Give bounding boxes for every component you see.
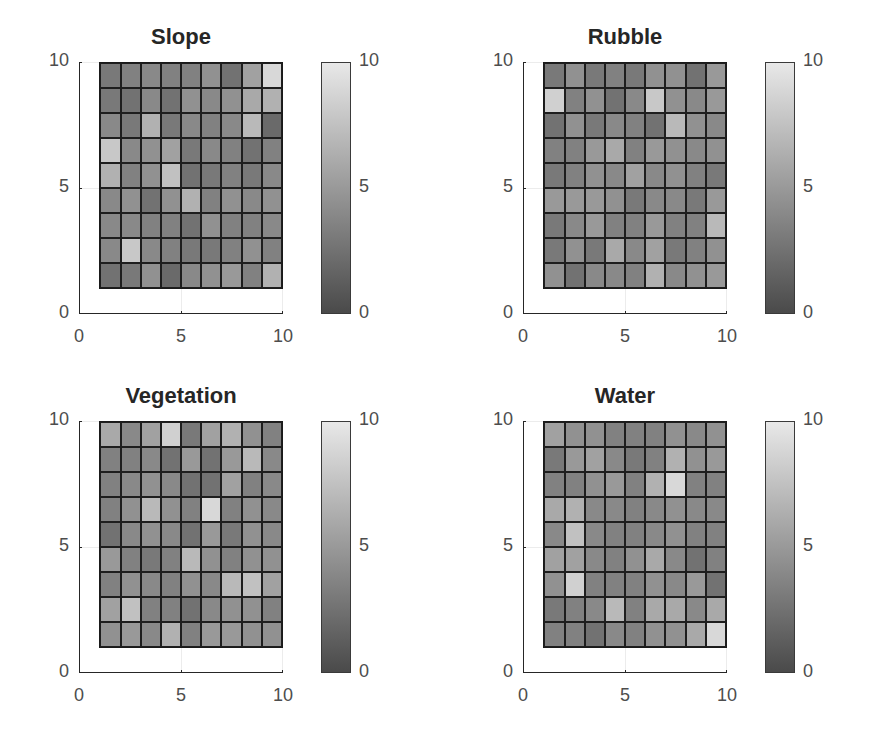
heatmap-cell [686,447,706,472]
heatmap-cell [605,213,625,238]
heatmap-cell [706,188,726,213]
chart-title: Vegetation [79,383,283,409]
heatmap-cell [625,88,645,113]
heatmap-cell [645,497,665,522]
heatmap-cell [565,63,585,88]
y-tick-label: 5 [483,535,513,556]
heatmap-cell [544,263,564,288]
heatmap-cell [706,597,726,622]
heatmap-cell [201,597,221,622]
heatmap-cell [242,188,262,213]
heatmap-cell [121,113,141,138]
heatmap-cell [645,113,665,138]
heatmap-cell [161,447,181,472]
x-tick-label: 10 [263,326,303,347]
heatmap-grid [543,421,727,648]
heatmap-cell [181,422,201,447]
y-tick-label: 10 [483,409,513,430]
heatmap-cell [585,522,605,547]
heatmap-cell [262,263,282,288]
heatmap-cell [121,238,141,263]
heatmap-cell [544,547,564,572]
heatmap-cell [645,422,665,447]
heatmap-cell [565,522,585,547]
heatmap-cell [665,113,685,138]
x-tick-label: 10 [707,326,747,347]
heatmap-cell [605,572,625,597]
heatmap-cell [706,572,726,597]
heatmap-cell [100,138,120,163]
heatmap-cell [625,263,645,288]
heatmap-cell [625,572,645,597]
heatmap-cell [181,188,201,213]
heatmap-cell [141,622,161,647]
heatmap-cell [201,547,221,572]
heatmap-cell [161,188,181,213]
heatmap-cell [565,113,585,138]
heatmap-cell [121,472,141,497]
heatmap-panel-water: Water051005100510 [444,359,873,719]
heatmap-cell [100,213,120,238]
heatmap-cell [161,522,181,547]
heatmap-cell [100,572,120,597]
y-tick-label: 0 [39,302,69,323]
heatmap-cell [201,622,221,647]
x-tick [282,670,283,673]
heatmap-cell [100,113,120,138]
heatmap-cell [544,238,564,263]
heatmap-cell [161,422,181,447]
heatmap-cell [706,213,726,238]
heatmap-cell [181,547,201,572]
heatmap-cell [242,547,262,572]
heatmap-cell [201,163,221,188]
heatmap-cell [605,522,625,547]
heatmap-cell [686,497,706,522]
heatmap-cell [262,472,282,497]
heatmap-cell [605,113,625,138]
heatmap-cell [585,138,605,163]
colorbar-tick-label: 0 [359,302,369,323]
heatmap-cell [262,138,282,163]
y-tick-label: 10 [483,50,513,71]
heatmap-cell [100,522,120,547]
heatmap-cell [181,447,201,472]
y-tick-label: 5 [39,535,69,556]
y-tick [523,188,526,189]
heatmap-cell [221,63,241,88]
heatmap-cell [121,213,141,238]
heatmap-cell [585,447,605,472]
heatmap-cell [100,497,120,522]
heatmap-cell [585,188,605,213]
colorbar-tick-label: 5 [803,176,813,197]
heatmap-cell [645,597,665,622]
heatmap-cell [585,213,605,238]
heatmap-cell [544,88,564,113]
heatmap-cell [100,547,120,572]
heatmap-cell [181,63,201,88]
heatmap-cell [544,138,564,163]
heatmap-cell [141,422,161,447]
heatmap-cell [665,63,685,88]
heatmap-cell [242,522,262,547]
heatmap-cell [706,163,726,188]
heatmap-cell [100,163,120,188]
heatmap-cell [544,597,564,622]
heatmap-cell [625,422,645,447]
heatmap-cell [686,213,706,238]
y-tick [79,188,82,189]
heatmap-cell [625,188,645,213]
y-tick-label: 10 [39,50,69,71]
heatmap-cell [565,622,585,647]
heatmap-cell [262,213,282,238]
heatmap-cell [585,113,605,138]
heatmap-cell [262,63,282,88]
y-tick-label: 0 [39,661,69,682]
heatmap-cell [121,547,141,572]
heatmap-cell [201,472,221,497]
chart-title: Water [523,383,727,409]
heatmap-cell [686,622,706,647]
heatmap-cell [242,622,262,647]
heatmap-cell [645,88,665,113]
heatmap-cell [100,238,120,263]
heatmap-cell [565,163,585,188]
